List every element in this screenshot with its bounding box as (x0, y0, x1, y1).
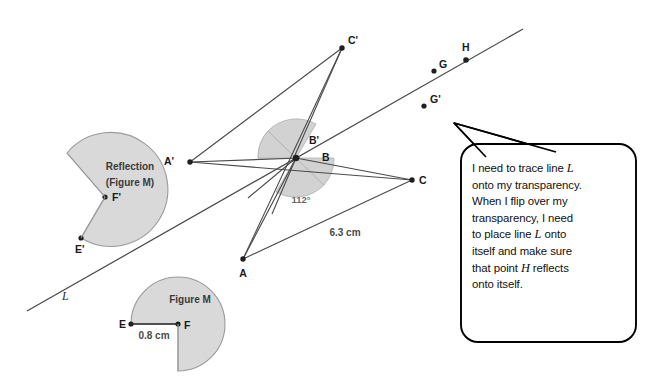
length-AC-label: 6.3 cm (329, 227, 360, 238)
bubble-line-4: transparency, I need (472, 210, 622, 227)
label-F-prime: F' (112, 191, 121, 203)
reflection-figure-label-line1: Reflection (106, 161, 154, 172)
bubble-line-8: onto itself. (472, 276, 622, 293)
label-E-prime: E' (75, 243, 85, 255)
label-H: H (462, 41, 470, 53)
bubble-line-7: that point H reflects (472, 260, 622, 277)
dot-B (293, 155, 299, 161)
segment-Aprime-B (190, 158, 300, 162)
bubble-line-2: onto my transparency. (472, 177, 622, 194)
label-A: A (239, 267, 247, 279)
length-EF-label: 0.8 cm (138, 330, 169, 341)
label-F: F (184, 319, 191, 331)
reflection-figure-label-line2: (Figure M) (106, 177, 154, 188)
dot-C-prime (339, 45, 344, 50)
dot-G-prime (421, 103, 426, 108)
dot-C (409, 177, 414, 182)
dot-A (240, 256, 245, 261)
dot-G (431, 68, 436, 73)
reflection-figure-m-shape (67, 132, 168, 246)
bubble-line-6: itself and make sure (472, 243, 622, 260)
label-B: B (322, 151, 330, 163)
angle-measure-label: 112° (291, 194, 310, 205)
speech-bubble-text: I need to trace line L onto my transpare… (472, 160, 622, 293)
triangle-segments (190, 48, 412, 259)
label-E: E (119, 318, 126, 330)
figure-m-label: Figure M (169, 294, 211, 305)
segment-A-C (243, 180, 412, 259)
label-G-prime: G' (430, 93, 441, 105)
bubble-line-3: When I flip over my (472, 193, 622, 210)
label-A-prime: A' (164, 155, 174, 167)
bubble-line-1: I need to trace line L (472, 160, 622, 177)
label-C: C (419, 174, 427, 186)
dot-H (463, 57, 469, 63)
label-B-prime: B' (309, 134, 319, 146)
label-C-prime: C' (348, 34, 358, 46)
diagram-canvas: A' A B' B C' C G G' H F' E' E F Reflecti… (0, 0, 658, 385)
dot-A-prime (187, 159, 192, 164)
bubble-line-5: to place line L onto (472, 226, 622, 243)
label-G: G (439, 58, 447, 70)
line-L-label: L (61, 289, 69, 303)
